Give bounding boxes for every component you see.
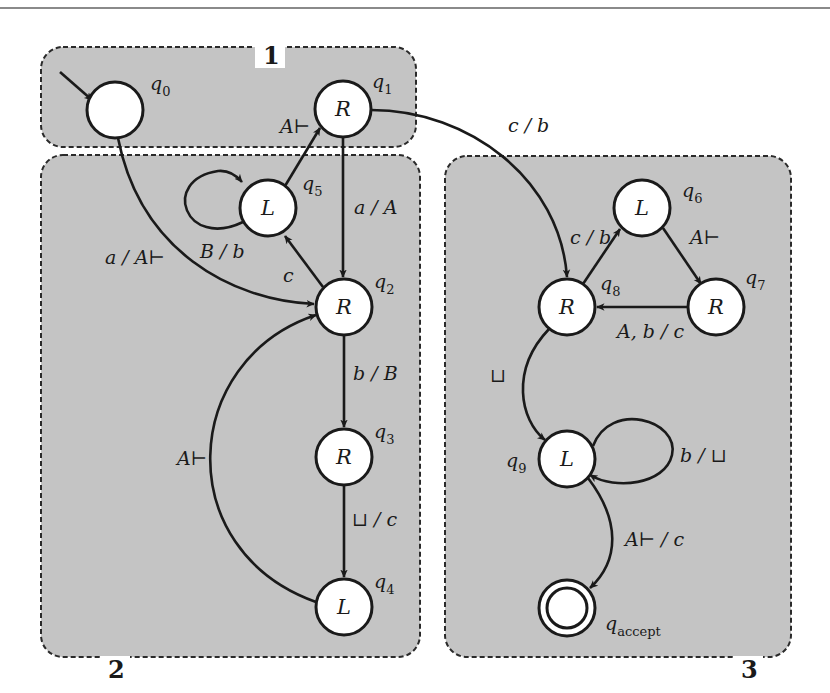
transition-label: A, b / c [615, 320, 684, 342]
transition-label: A⊢ [175, 447, 207, 469]
state-name-base: q [374, 570, 386, 592]
state-name-base: q [150, 72, 162, 94]
state-name-subscript: 5 [314, 184, 322, 199]
state-name-subscript: accept [617, 624, 661, 639]
state-name-subscript: 4 [386, 582, 394, 597]
state-name-subscript: 7 [757, 278, 765, 293]
transition-label: a / A [354, 196, 398, 218]
state-name-subscript: 9 [518, 461, 526, 476]
transition-label: c / b [570, 226, 611, 248]
state-head-move: R [558, 295, 575, 319]
state-name-base: q [605, 612, 617, 634]
transition-label: A⊢ / c [623, 528, 685, 550]
accept-inner-circle [547, 588, 587, 628]
state-circle [87, 82, 143, 138]
state-name-subscript: 0 [162, 84, 170, 99]
state-head-move: R [707, 295, 724, 319]
transition-label: a / A⊢ [105, 246, 165, 268]
state-head-move: L [634, 196, 649, 220]
state-head-move: L [336, 595, 351, 619]
state-name-subscript: 3 [386, 432, 394, 447]
state-name-subscript: 2 [386, 282, 394, 297]
transition-label: c / b [508, 114, 549, 136]
state-head-move: L [260, 196, 275, 220]
transition-label: ⊔ [490, 364, 506, 386]
regions-layer: 123 [41, 41, 791, 684]
transition-label: B / b [199, 240, 245, 262]
region-box [41, 155, 420, 657]
state-head-move: R [335, 445, 352, 469]
state-name-base: q [600, 272, 612, 294]
state-name-base: q [506, 449, 518, 471]
transition-label: A⊢ [278, 115, 310, 137]
state-name-subscript: 1 [384, 82, 392, 97]
transition-label: b / B [353, 362, 398, 384]
state-head-move: R [335, 295, 352, 319]
state-name-base: q [374, 270, 386, 292]
state-head-move: L [559, 447, 574, 471]
transition-label: A⊢ [688, 226, 720, 248]
transition-label: ⊔ / c [352, 508, 397, 530]
region-label: 1 [263, 41, 280, 70]
state-head-move: R [334, 97, 351, 121]
transition-label: c [283, 264, 294, 286]
state-name-base: q [374, 420, 386, 442]
region-label: 2 [108, 655, 125, 684]
transition-label: b / ⊔ [680, 444, 727, 466]
state-diagram: 123 a / A⊢A⊢B / ba / Acc / bb / B⊔ / cA⊢… [0, 0, 830, 693]
state-name-base: q [372, 70, 384, 92]
state-name-subscript: 6 [694, 191, 702, 206]
state-name-base: q [745, 266, 757, 288]
state-name-base: q [682, 179, 694, 201]
region-label: 3 [741, 655, 758, 684]
state-name-base: q [302, 172, 314, 194]
state-name-subscript: 8 [612, 284, 620, 299]
